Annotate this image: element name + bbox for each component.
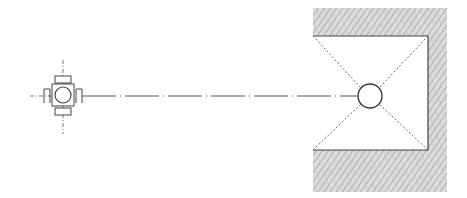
target-circle	[358, 84, 382, 108]
plan-drawing	[0, 0, 467, 198]
fixture-symbol	[30, 60, 82, 134]
